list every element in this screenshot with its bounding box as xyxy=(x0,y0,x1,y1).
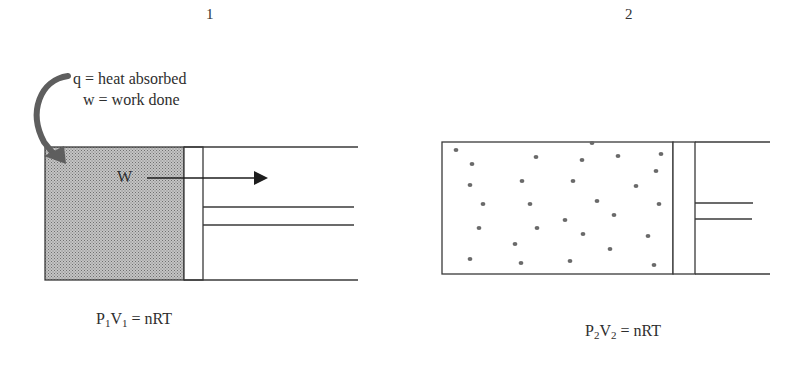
equation-state-2: P2V2 = nRT xyxy=(585,322,661,341)
gas-molecule xyxy=(468,257,473,261)
gas-molecule xyxy=(563,218,568,222)
compressed-gas-region xyxy=(45,147,184,280)
gas-molecule xyxy=(568,259,573,263)
diagram-canvas: 1 2 q = heat absorbed w = work done W P1… xyxy=(0,0,807,378)
gas-molecule xyxy=(534,155,539,159)
gas-molecule xyxy=(654,169,659,173)
gas-molecule xyxy=(571,179,576,183)
eq2-v: V xyxy=(599,322,611,339)
gas-molecule xyxy=(470,162,475,166)
gas-molecule xyxy=(590,141,595,145)
gas-molecule xyxy=(581,232,586,236)
heat-absorbed-label: q = heat absorbed xyxy=(73,70,186,88)
gas-molecule xyxy=(608,247,613,251)
gas-molecule xyxy=(595,199,600,203)
gas-molecule xyxy=(477,226,482,230)
gas-molecule xyxy=(657,202,662,206)
gas-molecule xyxy=(659,152,664,156)
eq1-v: V xyxy=(110,310,122,327)
gas-molecule xyxy=(481,202,486,206)
gas-molecule xyxy=(528,202,533,206)
eq1-rhs: = nRT xyxy=(127,310,172,327)
eq2-p: P xyxy=(585,322,594,339)
heat-arrow-icon xyxy=(37,76,68,164)
equation-state-1: P1V1 = nRT xyxy=(96,310,172,329)
gas-molecule xyxy=(513,242,518,246)
panel-1-label: 1 xyxy=(206,6,214,23)
eq1-p: P xyxy=(96,310,105,327)
gas-molecule xyxy=(520,179,525,183)
eq2-rhs: = nRT xyxy=(616,322,661,339)
gas-molecule xyxy=(454,148,459,152)
panel-2-label: 2 xyxy=(625,6,633,23)
panel-2-cylinder xyxy=(442,141,770,274)
gas-molecule xyxy=(535,226,540,230)
work-done-label: w = work done xyxy=(83,91,180,109)
gas-molecule xyxy=(612,213,617,217)
expanded-gas-region xyxy=(442,142,673,274)
gas-molecule xyxy=(519,261,524,265)
gas-molecule xyxy=(652,263,657,267)
gas-molecule xyxy=(580,158,585,162)
work-arrow-label: W xyxy=(117,168,132,186)
gas-molecule xyxy=(634,184,639,188)
piston-head-2 xyxy=(673,142,695,274)
gas-molecule xyxy=(646,234,651,238)
gas-molecule xyxy=(468,183,473,187)
gas-molecule xyxy=(616,154,621,158)
piston-head-1 xyxy=(184,147,203,280)
